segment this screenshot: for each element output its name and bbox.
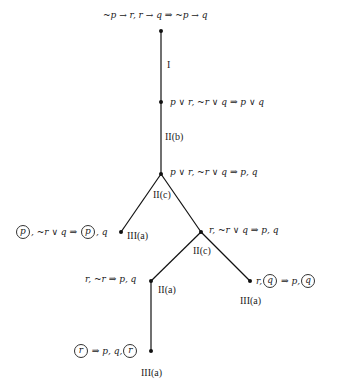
node-dot-n4 xyxy=(119,230,123,234)
rule-label-IIIa-bottom: III(a) xyxy=(141,367,162,379)
circled-atom: p xyxy=(81,225,95,239)
circled-atom: p xyxy=(16,225,30,239)
sequent-text: r, xyxy=(256,276,262,286)
node-dot-n7 xyxy=(248,279,252,283)
sequent-text: ⇒ p, q, xyxy=(89,346,122,356)
node-dot-n2 xyxy=(159,100,163,104)
sequent-n7-leaf: r,q ⇒ p,q xyxy=(256,274,316,288)
node-dot-n5 xyxy=(199,230,203,234)
proof-tree-edges xyxy=(0,0,343,383)
circled-atom: r xyxy=(123,344,137,358)
sequent-n3: p ∨ r, ~r ∨ q ⇒ p, q xyxy=(170,166,258,178)
circled-atom: q xyxy=(301,274,315,288)
sequent-n5: r, ~r ∨ q ⇒ p, q xyxy=(209,224,278,236)
circled-atom: q xyxy=(263,274,277,288)
node-dot-n3 xyxy=(159,172,163,176)
rule-label-IIa: II(a) xyxy=(158,284,176,296)
node-dot-n8 xyxy=(149,349,153,353)
rule-label-IIIa-right: III(a) xyxy=(240,295,261,307)
rule-label-I: I xyxy=(167,59,170,71)
edge-n3-n5 xyxy=(161,174,201,232)
edge-n3-n4 xyxy=(121,174,161,232)
sequent-text: , q xyxy=(96,227,107,237)
sequent-n6: r, ~r ⇒ p, q xyxy=(85,273,136,285)
rule-label-IIb: II(b) xyxy=(165,131,183,143)
node-dot-n6 xyxy=(149,279,153,283)
sequent-n4-leaf: p, ~r ∨ q ⇒ p, q xyxy=(15,225,107,239)
sequent-root: ~p → r, r → q ⇒ ~p → q xyxy=(103,9,208,21)
sequent-text: ⇒ p, xyxy=(278,276,300,286)
circled-atom: r xyxy=(74,344,88,358)
node-dot-n1 xyxy=(159,29,163,33)
rule-label-IIc-top: II(c) xyxy=(153,189,171,201)
sequent-n8-leaf: r ⇒ p, q,r xyxy=(73,344,138,358)
sequent-text: , ~r ∨ q ⇒ xyxy=(31,227,80,237)
sequent-n2: p ∨ r, ~r ∨ q ⇒ p ∨ q xyxy=(170,96,264,108)
rule-label-IIIa-left: III(a) xyxy=(127,230,148,242)
rule-label-IIc-mid: II(c) xyxy=(193,245,211,257)
